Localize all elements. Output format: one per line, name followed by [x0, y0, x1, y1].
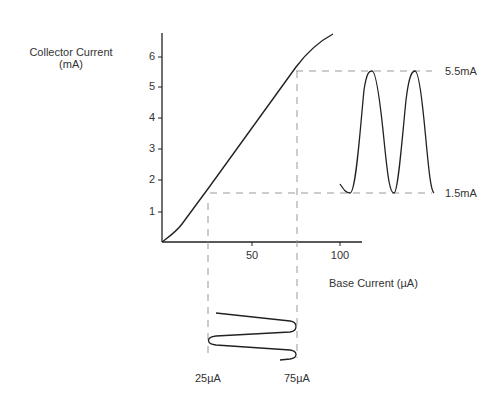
guide-lines: [208, 71, 432, 358]
y-tick-5: 5: [135, 80, 155, 92]
y-tick-4: 4: [135, 111, 155, 123]
input-low-label: 25µA: [195, 372, 221, 384]
input-waveform: [209, 313, 297, 360]
y-tick-3: 3: [135, 142, 155, 154]
output-low-label: 1.5mA: [445, 187, 477, 199]
y-axis-label: Collector Current (mA): [26, 46, 116, 70]
x-tick-100: 100: [325, 249, 355, 261]
output-high-label: 5.5mA: [445, 65, 477, 77]
y-tick-2: 2: [135, 173, 155, 185]
y-tick-1: 1: [135, 205, 155, 217]
transfer-curve: [162, 34, 333, 242]
x-axis-label: Base Current (µA): [329, 277, 418, 289]
output-waveform: [340, 71, 434, 193]
input-high-label: 75µA: [284, 372, 310, 384]
y-tick-6: 6: [135, 50, 155, 62]
x-tick-50: 50: [237, 249, 267, 261]
